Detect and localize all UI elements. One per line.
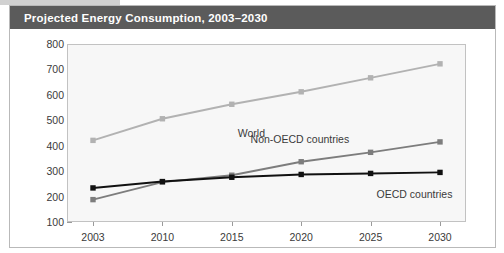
x-axis-tick-mark xyxy=(371,222,372,226)
y-axis-tick-label: 200 xyxy=(22,191,64,203)
y-axis-tick-label: 700 xyxy=(22,63,64,75)
data-point-marker xyxy=(160,116,165,121)
figure-container: Projected Energy Consumption, 2003–2030 … xyxy=(0,0,504,253)
x-axis-tick-label: 2010 xyxy=(151,231,174,243)
x-axis-tick-label: 2015 xyxy=(220,231,243,243)
data-point-marker xyxy=(437,61,442,66)
y-axis-tick-label: 600 xyxy=(22,89,64,101)
y-axis-tick-label: 500 xyxy=(22,114,64,126)
x-axis-tick-mark xyxy=(93,222,94,226)
x-axis-tick-mark xyxy=(162,222,163,226)
x-axis-tick-label: 2025 xyxy=(359,231,382,243)
y-axis-tick-label: 300 xyxy=(22,165,64,177)
data-point-marker xyxy=(368,150,373,155)
data-point-marker xyxy=(229,175,234,180)
x-axis-tick-mark xyxy=(301,222,302,226)
data-point-marker xyxy=(368,75,373,80)
data-point-marker xyxy=(437,170,442,175)
x-axis-tick-label: 2003 xyxy=(81,231,104,243)
data-point-marker xyxy=(299,89,304,94)
data-point-marker xyxy=(368,171,373,176)
data-point-marker xyxy=(299,172,304,177)
data-point-marker xyxy=(90,185,95,190)
figure-title-bar: Projected Energy Consumption, 2003–2030 xyxy=(10,6,495,29)
y-axis-tick-label: 100 xyxy=(22,216,64,228)
data-point-marker xyxy=(90,197,95,202)
data-point-marker xyxy=(437,139,442,144)
y-axis-tick-mark xyxy=(67,222,72,223)
data-point-marker xyxy=(229,102,234,107)
series-world xyxy=(90,61,442,143)
y-axis-tick-labels: 100200300400500600700800 xyxy=(22,38,64,228)
x-axis-tick-labels: 200320102015202020252030 xyxy=(67,225,466,243)
figure-title: Projected Energy Consumption, 2003–2030 xyxy=(10,12,268,24)
y-axis-tick-label: 800 xyxy=(22,38,64,50)
x-axis-tick-mark xyxy=(440,222,441,226)
y-axis-tick-label: 400 xyxy=(22,140,64,152)
x-axis-tick-label: 2030 xyxy=(428,231,451,243)
series-line xyxy=(93,64,440,141)
data-point-marker xyxy=(299,159,304,164)
series-annotation: OECD countries xyxy=(377,188,453,200)
x-axis-tick-mark xyxy=(232,222,233,226)
data-point-marker xyxy=(160,179,165,184)
data-point-marker xyxy=(90,138,95,143)
x-axis-tick-label: 2020 xyxy=(290,231,313,243)
series-annotation: Non-OECD countries xyxy=(251,133,350,145)
